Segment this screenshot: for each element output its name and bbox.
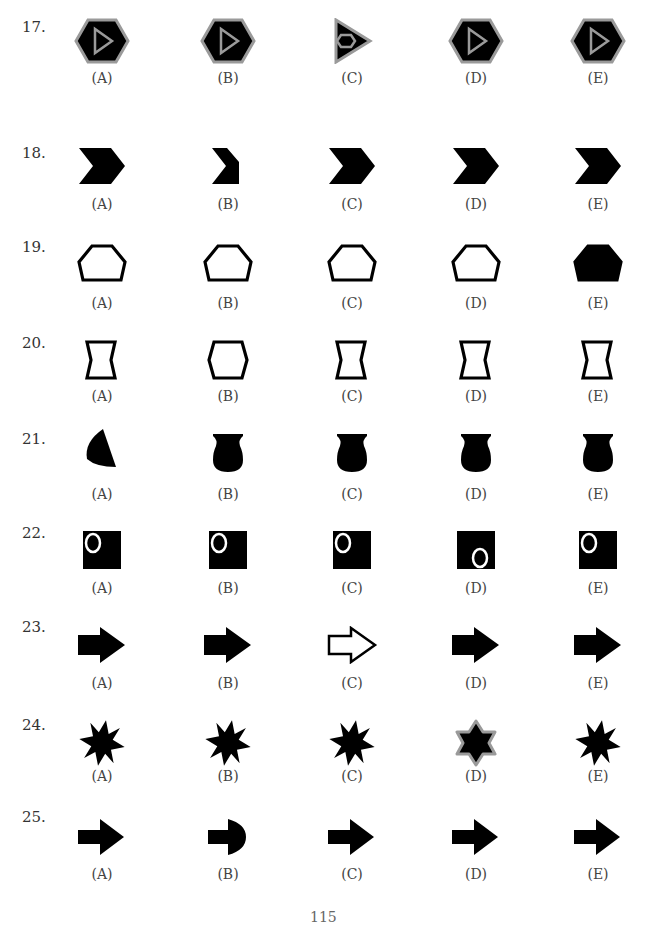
question-number: 18. <box>22 144 46 162</box>
option-label-a: (A) <box>72 388 132 404</box>
option-label-c: (C) <box>322 388 382 404</box>
hourglass-outline-icon <box>456 340 496 380</box>
option-24c[interactable] <box>312 718 392 768</box>
option-label-a: (A) <box>72 866 132 882</box>
option-label-a: (A) <box>72 768 132 784</box>
option-18e[interactable] <box>558 148 638 184</box>
triangle-hexagon-icon <box>324 18 380 64</box>
eight-point-star-icon <box>573 718 623 768</box>
option-18b[interactable] <box>188 148 268 184</box>
question-number: 25. <box>22 808 46 826</box>
pentagon-outline-icon <box>326 244 378 282</box>
hourglass-outline-icon <box>82 340 122 380</box>
pentagon-outline-icon <box>202 244 254 282</box>
option-20a[interactable] <box>62 340 142 380</box>
question-25: 25. (A) (B) (C) (D) (E) <box>0 800 655 900</box>
pentagon-outline-icon <box>450 244 502 282</box>
question-number: 21. <box>22 430 46 448</box>
option-18a[interactable] <box>62 148 142 184</box>
square-circle-icon <box>332 530 372 570</box>
option-21b[interactable] <box>188 432 268 474</box>
option-23c[interactable] <box>312 626 392 664</box>
option-label-a: (A) <box>72 675 132 691</box>
option-17a[interactable] <box>62 18 142 64</box>
option-19d[interactable] <box>436 244 516 282</box>
option-24d[interactable] <box>436 718 516 768</box>
option-label-c: (C) <box>322 866 382 882</box>
option-22c[interactable] <box>312 530 392 570</box>
hexagon-outline-icon <box>206 340 250 380</box>
six-point-star-icon <box>451 718 501 768</box>
wedge-icon <box>82 428 122 470</box>
option-25d[interactable] <box>436 818 516 856</box>
option-18d[interactable] <box>436 148 516 184</box>
option-21d[interactable] <box>436 432 516 474</box>
option-25c[interactable] <box>312 818 392 856</box>
option-label-b: (B) <box>198 70 258 86</box>
option-label-a: (A) <box>72 295 132 311</box>
option-25e[interactable] <box>558 818 638 856</box>
square-circle-icon <box>82 530 122 570</box>
vase-icon <box>210 432 246 474</box>
option-21a[interactable] <box>62 428 142 470</box>
option-22b[interactable] <box>188 530 268 570</box>
option-18c[interactable] <box>312 148 392 184</box>
option-17d[interactable] <box>436 18 516 64</box>
truncated-chevron-icon <box>203 148 253 184</box>
option-23d[interactable] <box>436 626 516 664</box>
option-19e[interactable] <box>558 244 638 282</box>
option-label-b: (B) <box>198 675 258 691</box>
page-number: 115 <box>310 909 337 925</box>
option-17e[interactable] <box>558 18 638 64</box>
hourglass-outline-icon <box>578 340 618 380</box>
option-19c[interactable] <box>312 244 392 282</box>
option-19a[interactable] <box>62 244 142 282</box>
vase-icon <box>458 432 494 474</box>
option-25a[interactable] <box>62 818 142 856</box>
chevron-icon <box>573 148 623 184</box>
option-25b[interactable] <box>188 818 268 856</box>
option-23e[interactable] <box>558 626 638 664</box>
option-24b[interactable] <box>188 718 268 768</box>
hexagon-triangle-icon <box>200 18 256 64</box>
chevron-icon <box>327 148 377 184</box>
option-17b[interactable] <box>188 18 268 64</box>
option-label-a: (A) <box>72 486 132 502</box>
option-23b[interactable] <box>188 626 268 664</box>
option-22d[interactable] <box>436 530 516 570</box>
option-24a[interactable] <box>62 718 142 768</box>
hexagon-triangle-icon <box>74 18 130 64</box>
question-number: 19. <box>22 238 46 256</box>
question-number: 22. <box>22 524 46 542</box>
option-label-b: (B) <box>198 866 258 882</box>
option-19b[interactable] <box>188 244 268 282</box>
arrow-right-icon <box>572 818 624 856</box>
option-label-c: (C) <box>322 768 382 784</box>
option-label-e: (E) <box>568 675 628 691</box>
option-label-e: (E) <box>568 580 628 596</box>
option-20d[interactable] <box>436 340 516 380</box>
block-arrow-icon <box>202 626 254 664</box>
option-21e[interactable] <box>558 432 638 474</box>
option-17c[interactable] <box>312 18 392 64</box>
option-label-d: (D) <box>446 768 506 784</box>
option-label-a: (A) <box>72 196 132 212</box>
option-23a[interactable] <box>62 626 142 664</box>
block-arrow-icon <box>450 626 502 664</box>
chevron-icon <box>451 148 501 184</box>
option-20c[interactable] <box>312 340 392 380</box>
option-20b[interactable] <box>188 340 268 380</box>
option-21c[interactable] <box>312 432 392 474</box>
option-label-d: (D) <box>446 196 506 212</box>
option-22e[interactable] <box>558 530 638 570</box>
option-label-c: (C) <box>322 486 382 502</box>
question-number: 23. <box>22 618 46 636</box>
rounded-arrow-icon <box>202 818 254 856</box>
eight-point-star-icon <box>203 718 253 768</box>
option-20e[interactable] <box>558 340 638 380</box>
option-label-e: (E) <box>568 486 628 502</box>
arrow-right-icon <box>450 818 502 856</box>
option-label-d: (D) <box>446 486 506 502</box>
option-24e[interactable] <box>558 718 638 768</box>
option-22a[interactable] <box>62 530 142 570</box>
